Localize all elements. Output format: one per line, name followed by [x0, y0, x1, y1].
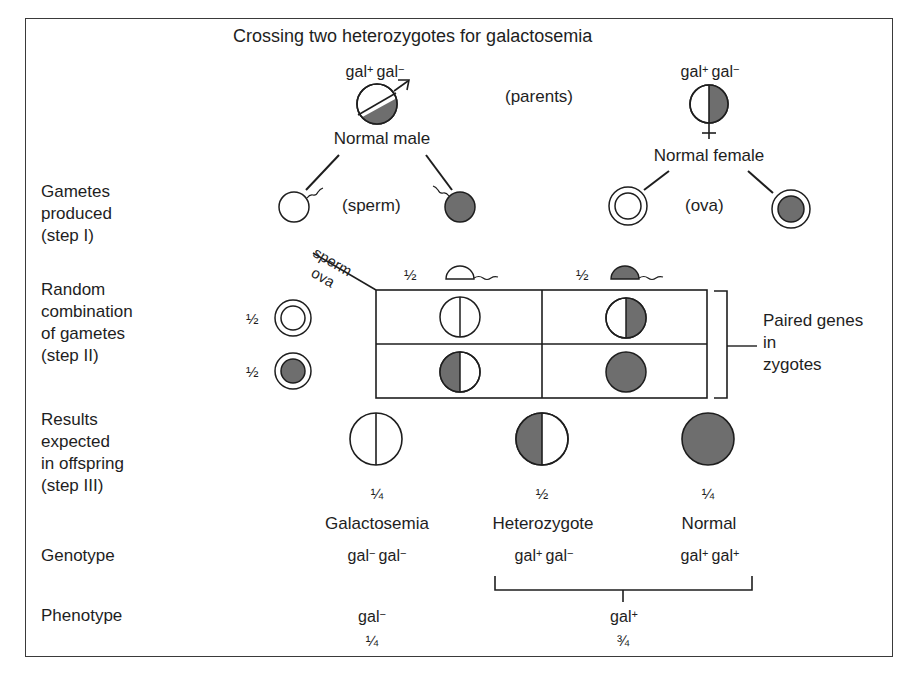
parents-label: (parents)	[505, 86, 573, 108]
zygote-gg-icon	[606, 352, 646, 392]
phenotype-fraction-2: ¾	[617, 630, 630, 652]
ovum-normal-icon	[609, 187, 647, 225]
zygote-ww-icon	[440, 297, 480, 337]
row-label-phenotype: Phenotype	[41, 605, 122, 627]
zygote-gw-icon	[440, 352, 480, 392]
phenotype-bracket	[495, 576, 752, 590]
offspring-heterozygote-icon	[516, 413, 568, 465]
female-parent-icon	[690, 85, 728, 139]
sperm-mutant-icon	[433, 186, 475, 222]
male-parent-icon	[350, 80, 409, 130]
sperm-fraction-2: ½	[576, 264, 589, 286]
punnett-ovum-mutant-icon	[275, 353, 311, 389]
ovum-mutant-icon	[772, 190, 810, 228]
punnett-ovum-normal-icon	[275, 300, 311, 336]
row-label-genotype: Genotype	[41, 545, 115, 567]
paired-genes-label: Paired genes in zygotes	[763, 310, 863, 376]
sperm-label: (sperm)	[342, 195, 401, 217]
zygote-wg-icon	[606, 298, 646, 338]
zygote-bracket	[714, 291, 727, 398]
offspring-galactosemia-icon	[350, 413, 402, 465]
offspring-normal-icon	[682, 413, 734, 465]
offspring-genotype-3: gal+ gal+	[681, 545, 740, 567]
offspring-name-3: Normal	[682, 513, 737, 535]
offspring-name-1: Galactosemia	[325, 513, 429, 535]
phenotype-fraction-1: ¼	[366, 630, 379, 652]
offspring-name-2: Heterozygote	[492, 513, 593, 535]
sperm-fraction-1: ½	[404, 264, 417, 286]
offspring-fraction-3: ¼	[702, 483, 715, 505]
sperm-normal-icon	[279, 188, 323, 222]
row-label-results: Results expected in offspring (step III)	[41, 409, 124, 497]
phenotype-2: gal+	[610, 606, 638, 628]
ova-label: (ova)	[685, 195, 724, 217]
phenotype-1: gal−	[358, 606, 386, 628]
male-genotype: gal+ gal−	[346, 61, 405, 83]
punnett-sperm-normal-icon	[446, 266, 498, 280]
figure-title: Crossing two heterozygotes for galactose…	[233, 25, 592, 47]
row-label-gametes: Gametes produced (step I)	[41, 181, 112, 247]
male-label: Normal male	[334, 128, 430, 150]
row-label-combination: Random combination of gametes (step II)	[41, 279, 133, 367]
offspring-fraction-2: ½	[536, 483, 549, 505]
offspring-genotype-1: gal− gal−	[348, 545, 407, 567]
punnett-sperm-mutant-icon	[611, 266, 663, 280]
female-label: Normal female	[654, 145, 765, 167]
ova-fraction-1: ½	[246, 308, 259, 330]
female-genotype: gal+ gal−	[681, 61, 740, 83]
punnett-grid	[376, 290, 707, 398]
ova-fraction-2: ½	[246, 361, 259, 383]
offspring-genotype-2: gal+ gal−	[515, 545, 574, 567]
offspring-fraction-1: ¼	[371, 483, 384, 505]
